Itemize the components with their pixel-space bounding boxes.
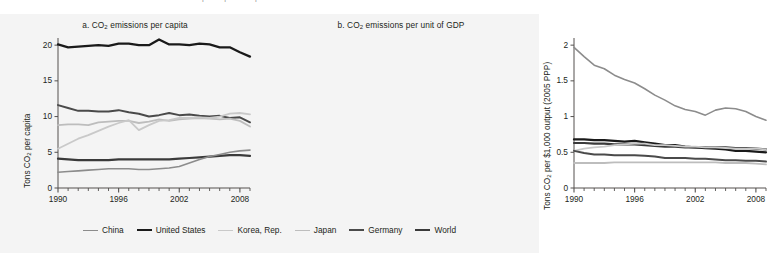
legend-label: Germany (368, 225, 402, 235)
legend-label: China (102, 225, 124, 235)
panel-b-title: b. CO2 emissions per unit of GDP (268, 20, 534, 30)
legend-line-swatch-icon (83, 230, 98, 231)
chart-panel-a: a. CO2 emissions per capita Tons CO2 per… (6, 20, 264, 215)
legend-label: Japan (314, 225, 337, 235)
panel-a-plot-area: 051015201990199620022008 (58, 38, 250, 188)
x-tick-label: 2002 (159, 194, 199, 204)
y-tick-label: 10 (12, 111, 52, 121)
legend-label: United States (156, 225, 206, 235)
x-tick-label: 1990 (38, 194, 78, 204)
chart-panel-b: b. CO2 emissions per unit of GDP Tons CO… (268, 20, 534, 215)
y-tick-label: 2 (528, 40, 568, 50)
y-tick-label: 1.5 (528, 75, 568, 85)
y-tick-label: 1 (528, 111, 568, 121)
legend-line-swatch-icon (137, 229, 152, 231)
panel-b-ylabel-subscript: 2 (546, 174, 552, 177)
series-line-japan (574, 162, 766, 164)
x-tick-label: 2008 (736, 194, 772, 204)
y-tick-label: 5 (12, 147, 52, 157)
cut-off-caption-strip: CO emissions per capita and per unit of … (0, 0, 539, 14)
panel-b-title-prefix: b. CO (338, 20, 360, 30)
legend-item[interactable]: China (83, 225, 124, 235)
legend-line-swatch-icon (218, 230, 233, 231)
legend-item[interactable]: Japan (295, 225, 337, 235)
series-line-china (574, 47, 766, 120)
axis-lines (58, 38, 250, 188)
panel-a-title: a. CO2 emissions per capita (6, 20, 264, 30)
y-tick-label: 0 (528, 183, 568, 193)
legend-item[interactable]: World (415, 225, 456, 235)
series-line-korea-rep (58, 113, 250, 149)
series-line-united-states (58, 39, 250, 56)
y-tick-label: 15 (12, 75, 52, 85)
chart-legend: ChinaUnited StatesKorea, Rep.JapanGerman… (0, 222, 539, 238)
y-tick-label: 0 (12, 183, 52, 193)
panel-b-svg (574, 38, 772, 196)
y-tick-label: 0.5 (528, 147, 568, 157)
cut-off-caption-text: CO emissions per capita and per unit of … (150, 0, 310, 2)
legend-label: World (434, 225, 456, 235)
series-line-germany (574, 151, 766, 162)
axis-lines (574, 38, 766, 188)
legend-line-swatch-icon (415, 229, 430, 231)
legend-line-swatch-icon (349, 229, 364, 231)
x-tick-label: 2002 (675, 194, 715, 204)
legend-item[interactable]: Korea, Rep. (218, 225, 281, 235)
panel-b-title-suffix: emissions per unit of GDP (363, 20, 464, 30)
panel-a-svg (58, 38, 260, 196)
x-tick-label: 1996 (615, 194, 655, 204)
legend-item[interactable]: United States (137, 225, 206, 235)
panel-b-plot-area: 00.511.521990199620022008 (574, 38, 766, 188)
panel-a-title-prefix: a. CO (82, 20, 104, 30)
y-tick-label: 20 (12, 40, 52, 50)
legend-item[interactable]: Germany (349, 225, 402, 235)
x-tick-label: 1990 (554, 194, 594, 204)
x-tick-label: 2008 (220, 194, 260, 204)
legend-line-swatch-icon (295, 230, 310, 231)
legend-label: Korea, Rep. (237, 225, 281, 235)
panel-a-title-suffix: emissions per capita (108, 20, 188, 30)
series-line-world (58, 155, 250, 160)
x-tick-label: 1996 (99, 194, 139, 204)
